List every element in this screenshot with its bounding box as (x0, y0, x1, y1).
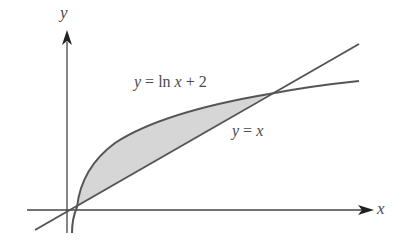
line-label: y = x (232, 122, 263, 140)
log-label-x: x (175, 73, 182, 90)
line-label-x: x (256, 122, 263, 139)
log-label-eq: = (145, 73, 154, 90)
log-label-y: y (134, 73, 141, 90)
x-axis-label: x (377, 199, 385, 219)
graph-svg (0, 0, 404, 250)
y-axis-label: y (60, 3, 68, 23)
log-label-fn: ln (158, 73, 170, 90)
log-curve-label: y = ln x + 2 (134, 73, 207, 91)
log-label-rest: + 2 (186, 73, 207, 90)
diagram-canvas: y x y = ln x + 2 y = x (0, 0, 404, 250)
line-label-eq: = (243, 122, 252, 139)
line-label-y: y (232, 122, 239, 139)
line-y-equals-x (35, 44, 359, 230)
